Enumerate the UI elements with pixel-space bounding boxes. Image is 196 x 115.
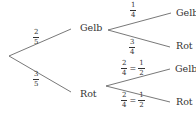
prob-gelb-gelb: 1 4 xyxy=(130,2,136,19)
numerator: 3 xyxy=(33,71,39,78)
simplified-fraction: 1 2 xyxy=(138,60,144,77)
numerator: 1 xyxy=(138,60,144,67)
edge-root-rot xyxy=(9,56,71,92)
denominator: 5 xyxy=(33,81,39,88)
prob-gelb-rot: 3 4 xyxy=(129,39,135,56)
denominator: 4 xyxy=(121,70,127,77)
edge-gelb-rot xyxy=(108,30,170,47)
denominator: 4 xyxy=(121,102,127,109)
node-gelb-gelb: Gelb xyxy=(176,8,196,18)
tree-edges xyxy=(0,0,196,115)
prob-rot-rot: 2 4 = 1 2 xyxy=(121,92,145,109)
simplified-fraction: 1 2 xyxy=(138,92,144,109)
node-rot-level1: Rot xyxy=(80,89,97,99)
node-gelb-level1: Gelb xyxy=(80,23,102,33)
equals-sign: = xyxy=(129,96,136,105)
numerator: 2 xyxy=(121,92,127,99)
denominator: 2 xyxy=(138,70,144,77)
prob-rot-gelb: 2 4 = 1 2 xyxy=(121,60,145,77)
numerator: 3 xyxy=(129,39,135,46)
prob-root-gelb: 2 5 xyxy=(33,29,39,46)
denominator: 5 xyxy=(33,39,39,46)
numerator: 1 xyxy=(130,2,136,9)
equals-sign: = xyxy=(129,64,136,73)
fraction: 2 4 xyxy=(121,60,127,77)
numerator: 2 xyxy=(121,60,127,67)
denominator: 4 xyxy=(129,49,135,56)
fraction: 2 4 xyxy=(121,92,127,109)
edge-root-gelb xyxy=(9,29,71,56)
denominator: 4 xyxy=(130,12,136,19)
node-rot-gelb: Gelb xyxy=(175,64,196,74)
node-rot-rot: Rot xyxy=(176,97,193,107)
denominator: 2 xyxy=(138,102,144,109)
node-gelb-rot: Rot xyxy=(176,41,193,51)
numerator: 2 xyxy=(33,29,39,36)
prob-root-rot: 3 5 xyxy=(33,71,39,88)
edge-gelb-gelb xyxy=(108,13,171,30)
numerator: 1 xyxy=(138,92,144,99)
